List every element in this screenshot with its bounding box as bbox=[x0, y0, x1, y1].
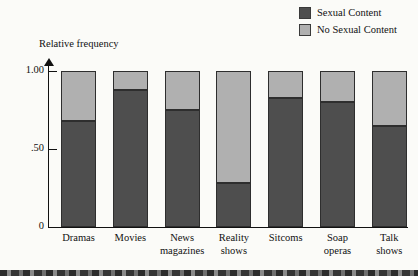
chart-figure: Sexual Content No Sexual Content Relativ… bbox=[0, 0, 418, 276]
y-axis-tick-label: 1.00 bbox=[26, 64, 44, 75]
bar-soap-operas bbox=[320, 71, 355, 227]
y-axis-line bbox=[48, 64, 49, 228]
bar-segment-sexual-content bbox=[113, 90, 148, 227]
bar-news-magazines bbox=[165, 71, 200, 227]
bar-segment-no-sexual-content bbox=[165, 71, 200, 110]
x-axis-category-label-line: Talk bbox=[358, 232, 418, 245]
bar-movies bbox=[113, 71, 148, 227]
y-axis-tick-mark bbox=[49, 71, 57, 72]
y-axis-tick-label: .50 bbox=[31, 142, 44, 153]
page-edge-band bbox=[0, 270, 418, 276]
x-axis-category-label-line: shows bbox=[358, 245, 418, 258]
bar-segment-no-sexual-content bbox=[61, 71, 96, 121]
bar-dramas bbox=[61, 71, 96, 227]
x-axis-line bbox=[48, 227, 408, 228]
bar-segment-no-sexual-content bbox=[216, 71, 251, 183]
y-axis-tick-label: 0 bbox=[39, 220, 44, 231]
bar-segment-no-sexual-content bbox=[268, 71, 303, 98]
plot-area: 0.501.00 DramasMoviesNewsmagazinesRealit… bbox=[0, 0, 418, 276]
bar-segment-sexual-content bbox=[61, 121, 96, 227]
bar-segment-no-sexual-content bbox=[320, 71, 355, 102]
bar-segment-sexual-content bbox=[165, 110, 200, 227]
bar-segment-no-sexual-content bbox=[113, 71, 148, 90]
x-axis-category-label-talk-shows: Talkshows bbox=[358, 232, 418, 257]
bar-segment-sexual-content bbox=[320, 102, 355, 227]
bar-talk-shows bbox=[372, 71, 407, 227]
x-axis-category-label-line: shows bbox=[203, 245, 265, 258]
y-axis-tick-mark bbox=[49, 149, 57, 150]
bar-segment-no-sexual-content bbox=[372, 71, 407, 126]
bar-reality-shows bbox=[216, 71, 251, 227]
bar-segment-sexual-content bbox=[216, 183, 251, 227]
bar-segment-sexual-content bbox=[372, 126, 407, 227]
bar-sitcoms bbox=[268, 71, 303, 227]
bar-segment-sexual-content bbox=[268, 98, 303, 227]
